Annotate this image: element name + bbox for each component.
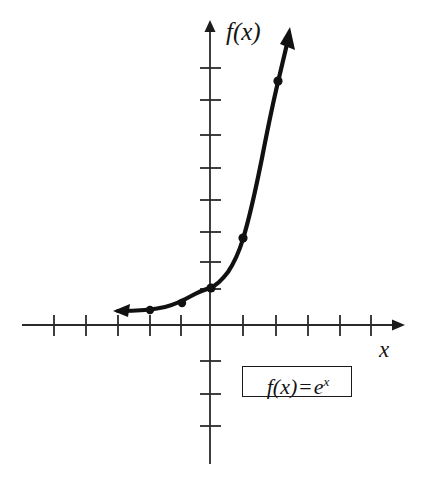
curve-data-points (146, 76, 283, 314)
equation-exponent: x (323, 374, 329, 389)
exponential-curve (118, 44, 287, 311)
equation-base: e (314, 374, 324, 399)
y-axis-label: f(x) (226, 18, 261, 46)
y-axis-arrow-icon (205, 20, 216, 32)
data-point-2 (273, 76, 282, 85)
x-axis-label: x (379, 337, 389, 363)
data-point--3 (146, 306, 154, 314)
exponential-graph-svg (0, 0, 423, 480)
data-point-1 (238, 233, 247, 242)
equation-text: f(x)=ex (243, 367, 353, 398)
data-point--2 (178, 299, 186, 307)
x-axis-arrow-icon (392, 320, 405, 331)
curve-right-arrow-icon (280, 27, 295, 50)
curve-left-arrow-icon (113, 304, 130, 317)
equation-operator: = (297, 374, 313, 399)
equation-box: f(x)=ex (242, 366, 352, 397)
graph-figure: f(x) x f(x)=ex (0, 0, 423, 480)
equation-function: f(x) (267, 374, 298, 399)
data-point--1 (206, 283, 215, 292)
curve-group (113, 27, 295, 317)
